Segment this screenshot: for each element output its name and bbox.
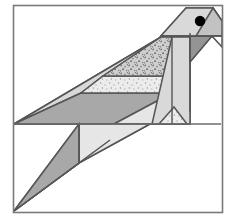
bird-quilt-figure: Bird Quilt Block Geometric pieced bird f… <box>0 0 234 221</box>
bird-illustration-svg <box>0 0 234 221</box>
bird-eye-icon <box>195 16 205 26</box>
